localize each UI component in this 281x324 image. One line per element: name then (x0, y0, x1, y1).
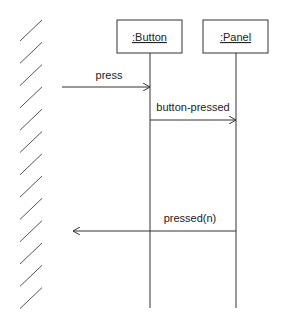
boundary-hatch (20, 20, 42, 309)
hatch-line (20, 198, 42, 219)
hatch-line (20, 243, 42, 264)
sequence-diagram: :Button :Panel press button-pressed pres… (0, 0, 281, 324)
object-label: :Panel (220, 31, 251, 43)
hatch-line (20, 109, 42, 130)
object-label: :Button (132, 31, 167, 43)
object-button[interactable]: :Button (117, 20, 182, 308)
hatch-line (20, 176, 42, 197)
hatch-line (20, 154, 42, 175)
object-panel[interactable]: :Panel (203, 20, 268, 308)
message-pressed-n[interactable]: pressed(n) (73, 212, 236, 231)
hatch-line (20, 20, 42, 41)
hatch-line (20, 132, 42, 153)
message-label: button-pressed (156, 101, 229, 113)
hatch-line (20, 221, 42, 242)
hatch-line (20, 288, 42, 309)
message-label: press (96, 69, 123, 81)
hatch-line (20, 87, 42, 108)
message-button-pressed[interactable]: button-pressed (150, 101, 236, 120)
message-label: pressed(n) (164, 212, 217, 224)
hatch-line (20, 265, 42, 286)
hatch-line (20, 42, 42, 63)
hatch-line (20, 65, 42, 86)
message-press[interactable]: press (62, 69, 150, 87)
